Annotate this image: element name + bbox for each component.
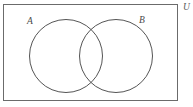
set-a-label: A: [27, 17, 33, 27]
set-a-circle: [30, 20, 103, 93]
set-b-label: B: [139, 16, 145, 26]
universal-set-label: U: [183, 3, 190, 13]
venn-diagram-figure: A B U: [0, 0, 193, 107]
set-b-circle: [80, 20, 153, 93]
